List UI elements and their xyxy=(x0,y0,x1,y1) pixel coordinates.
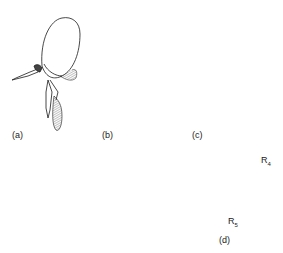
panel-c-label: (c) xyxy=(192,131,203,140)
panel-a-head-drawing xyxy=(12,18,80,131)
figure-illustration xyxy=(0,0,283,253)
panel-b-label: (b) xyxy=(102,131,113,140)
panel-a-label: (a) xyxy=(12,131,23,140)
vein-r5-subscript: 5 xyxy=(235,222,238,228)
panel-d-label: (d) xyxy=(219,236,230,245)
vein-label-r4: R4 xyxy=(261,156,271,167)
vein-r4-subscript: 4 xyxy=(268,161,271,167)
vein-label-r5: R5 xyxy=(228,217,238,228)
